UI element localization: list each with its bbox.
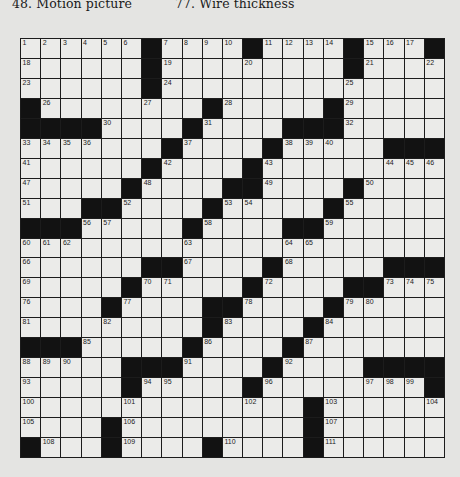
grid-cell[interactable] [183,398,202,417]
grid-cell[interactable] [82,358,101,377]
grid-cell[interactable] [324,378,343,397]
grid-cell[interactable] [162,338,181,357]
grid-cell[interactable] [162,219,181,238]
grid-cell[interactable]: 98 [384,378,403,397]
grid-cell[interactable]: 48 [142,179,161,198]
grid-cell[interactable] [223,239,242,258]
grid-cell[interactable] [324,258,343,277]
grid-cell[interactable] [162,398,181,417]
grid-cell[interactable]: 100 [21,398,40,417]
grid-cell[interactable] [384,418,403,437]
grid-cell[interactable] [344,398,363,417]
grid-cell[interactable] [203,59,222,78]
grid-cell[interactable]: 63 [183,239,202,258]
grid-cell[interactable] [243,318,262,337]
grid-cell[interactable] [102,239,121,258]
grid-cell[interactable] [183,159,202,178]
grid-cell[interactable] [304,278,323,297]
grid-cell[interactable] [425,99,444,118]
grid-cell[interactable] [405,239,424,258]
grid-cell[interactable] [183,99,202,118]
grid-cell[interactable] [162,199,181,218]
grid-cell[interactable]: 44 [384,159,403,178]
grid-cell[interactable] [304,258,323,277]
grid-cell[interactable]: 3 [61,39,80,58]
grid-cell[interactable] [82,59,101,78]
grid-cell[interactable] [82,159,101,178]
grid-cell[interactable]: 106 [122,418,141,437]
grid-cell[interactable]: 12 [283,39,302,58]
grid-cell[interactable] [102,338,121,357]
grid-cell[interactable] [122,119,141,138]
grid-cell[interactable] [142,318,161,337]
grid-cell[interactable] [384,219,403,238]
grid-cell[interactable] [61,199,80,218]
grid-cell[interactable] [203,358,222,377]
grid-cell[interactable] [223,139,242,158]
grid-cell[interactable] [263,298,282,317]
grid-cell[interactable] [344,338,363,357]
grid-cell[interactable] [102,358,121,377]
grid-cell[interactable] [41,398,60,417]
grid-cell[interactable] [263,438,282,457]
grid-cell[interactable]: 102 [243,398,262,417]
grid-cell[interactable] [263,239,282,258]
grid-cell[interactable]: 66 [21,258,40,277]
grid-cell[interactable] [61,159,80,178]
grid-cell[interactable] [263,398,282,417]
grid-cell[interactable] [384,239,403,258]
grid-cell[interactable]: 7 [162,39,181,58]
grid-cell[interactable]: 9 [203,39,222,58]
grid-cell[interactable] [223,358,242,377]
grid-cell[interactable]: 6 [122,39,141,58]
grid-cell[interactable] [304,99,323,118]
grid-cell[interactable]: 23 [21,79,40,98]
grid-cell[interactable] [41,179,60,198]
grid-cell[interactable] [283,438,302,457]
grid-cell[interactable]: 81 [21,318,40,337]
grid-cell[interactable] [61,378,80,397]
grid-cell[interactable] [384,99,403,118]
grid-cell[interactable] [61,179,80,198]
grid-cell[interactable] [364,239,383,258]
grid-cell[interactable]: 5 [102,39,121,58]
grid-cell[interactable] [304,59,323,78]
grid-cell[interactable]: 39 [304,139,323,158]
grid-cell[interactable]: 21 [364,59,383,78]
grid-cell[interactable]: 43 [263,159,282,178]
grid-cell[interactable] [142,398,161,417]
grid-cell[interactable]: 76 [21,298,40,317]
grid-cell[interactable]: 47 [21,179,40,198]
grid-cell[interactable] [142,199,161,218]
grid-cell[interactable] [82,179,101,198]
grid-cell[interactable] [122,258,141,277]
grid-cell[interactable] [243,219,262,238]
grid-cell[interactable] [203,239,222,258]
grid-cell[interactable] [203,378,222,397]
grid-cell[interactable]: 103 [324,398,343,417]
grid-cell[interactable] [364,139,383,158]
grid-cell[interactable] [283,278,302,297]
grid-cell[interactable] [183,199,202,218]
grid-cell[interactable] [364,79,383,98]
grid-cell[interactable]: 80 [364,298,383,317]
grid-cell[interactable] [263,119,282,138]
grid-cell[interactable] [304,79,323,98]
grid-cell[interactable]: 82 [102,318,121,337]
grid-cell[interactable] [364,199,383,218]
grid-cell[interactable]: 14 [324,39,343,58]
grid-cell[interactable]: 30 [102,119,121,138]
grid-cell[interactable]: 54 [243,199,262,218]
grid-cell[interactable]: 24 [162,79,181,98]
grid-cell[interactable] [405,418,424,437]
grid-cell[interactable]: 41 [21,159,40,178]
grid-cell[interactable] [122,318,141,337]
grid-cell[interactable] [102,378,121,397]
grid-cell[interactable] [384,79,403,98]
grid-cell[interactable] [324,59,343,78]
grid-cell[interactable]: 79 [344,298,363,317]
grid-cell[interactable] [425,318,444,337]
grid-cell[interactable]: 15 [364,39,383,58]
grid-cell[interactable]: 26 [41,99,60,118]
grid-cell[interactable] [102,179,121,198]
